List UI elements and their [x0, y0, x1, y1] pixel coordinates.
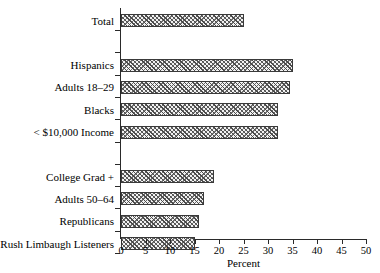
bar-total	[121, 14, 244, 27]
bar-adults-18-29	[121, 81, 290, 94]
bar-fill	[121, 192, 204, 205]
bar-chart: TotalHispanicsAdults 18–29Blacks< $10,00…	[0, 0, 380, 273]
category-label: College Grad +	[0, 171, 114, 184]
x-tick	[244, 239, 245, 244]
bar-hispanics	[121, 59, 293, 72]
x-tick	[121, 239, 122, 244]
x-tick	[268, 239, 269, 244]
x-tick	[170, 239, 171, 244]
bar-fill	[121, 215, 199, 228]
category-label: Hispanics	[0, 59, 114, 72]
x-tick	[317, 239, 318, 244]
category-label: Republicans	[0, 215, 114, 228]
x-tick	[195, 239, 196, 244]
category-label: Total	[0, 15, 114, 28]
bar-republicans	[121, 215, 199, 228]
bar-fill	[121, 103, 278, 116]
category-label: Blacks	[0, 104, 114, 117]
x-tick	[366, 239, 367, 244]
y-tick	[115, 142, 120, 143]
x-tick	[146, 239, 147, 244]
x-tick	[219, 239, 220, 244]
bar-10-000-income	[121, 126, 278, 139]
y-tick	[115, 231, 120, 232]
y-tick	[115, 75, 120, 76]
category-label: Rush Limbaugh Listeners	[0, 238, 114, 251]
bar-fill	[121, 81, 290, 94]
y-tick	[115, 164, 120, 165]
bar-fill	[121, 14, 244, 27]
category-label: < $10,000 Income	[0, 126, 114, 139]
bar-adults-50-64	[121, 192, 204, 205]
category-label: Adults 18–29	[0, 81, 114, 94]
bar-blacks	[121, 103, 278, 116]
y-tick	[115, 186, 120, 187]
bar-fill	[121, 126, 278, 139]
bar-fill	[121, 59, 293, 72]
bar-fill	[121, 170, 214, 183]
x-tick	[293, 239, 294, 244]
y-tick	[115, 30, 120, 31]
y-tick	[115, 52, 120, 53]
bar-college-grad	[121, 170, 214, 183]
x-tick-label: 50	[351, 245, 380, 257]
y-tick	[115, 208, 120, 209]
x-axis-title: Percent	[121, 257, 366, 270]
y-tick	[115, 119, 120, 120]
y-tick	[115, 97, 120, 98]
x-tick	[342, 239, 343, 244]
category-label: Adults 50–64	[0, 193, 114, 206]
